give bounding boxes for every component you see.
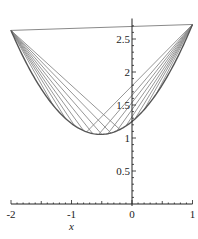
chord-from-left bbox=[11, 30, 111, 133]
x-tick-label: 0 bbox=[129, 208, 135, 220]
chord-from-right bbox=[144, 24, 192, 109]
chord-from-right bbox=[156, 24, 192, 94]
y-tick-label: 2.5 bbox=[116, 33, 130, 45]
y-tick-label: 1 bbox=[125, 132, 131, 144]
x-axis-label: x bbox=[68, 220, 74, 232]
chord-from-left bbox=[11, 30, 75, 125]
chord-from-right bbox=[126, 24, 193, 125]
y-tick-label: 2 bbox=[125, 66, 131, 78]
chart-canvas: -2-1010.511.522.5x bbox=[0, 0, 198, 239]
chord-from-right bbox=[135, 24, 192, 118]
chord-from-left bbox=[11, 30, 65, 118]
y-tick-label: 0.5 bbox=[116, 165, 130, 177]
x-tick-label: 1 bbox=[190, 208, 196, 220]
chord-from-left bbox=[11, 30, 102, 134]
chord-from-left bbox=[11, 30, 93, 133]
chord-from-right bbox=[87, 24, 193, 131]
chord-from-right bbox=[99, 24, 193, 134]
chord-endpoints bbox=[11, 24, 193, 30]
axes bbox=[11, 19, 193, 207]
y-tick-label: 1.5 bbox=[116, 99, 130, 111]
x-tick-label: -2 bbox=[6, 208, 15, 220]
x-tick-label: -1 bbox=[67, 208, 76, 220]
chord-from-left bbox=[11, 30, 84, 130]
